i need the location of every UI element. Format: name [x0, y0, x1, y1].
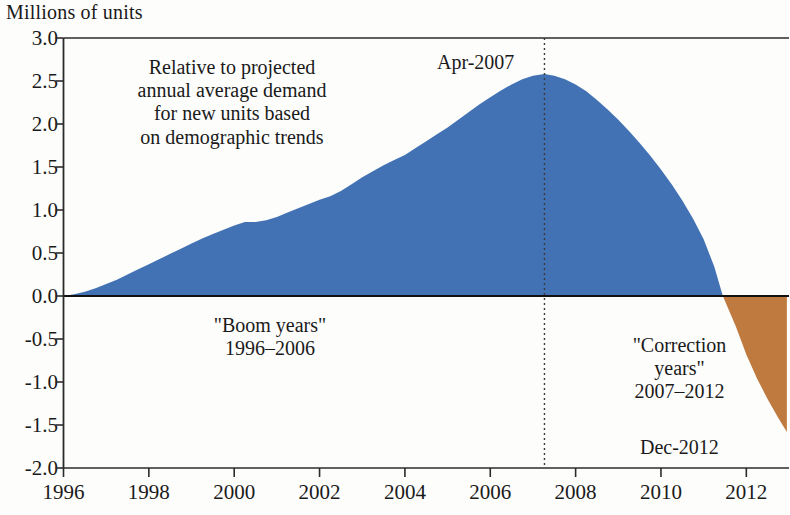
annotation-correction-years: "Correction years" 2007–2012 — [602, 334, 757, 404]
x-tick-label: 2008 — [555, 482, 597, 503]
x-tick-label: 2006 — [469, 482, 511, 503]
annotation-demand-note: Relative to projected annual average dem… — [104, 56, 360, 149]
chart-container: Millions of units 3.02.52.01.51.00.50.0-… — [0, 0, 790, 515]
x-tick-label: 2004 — [384, 482, 426, 503]
x-tick-label: 2010 — [640, 482, 682, 503]
peak-point-label: Apr-2007 — [437, 52, 514, 72]
x-tick-label: 2002 — [299, 482, 341, 503]
x-tick-label: 1998 — [128, 482, 170, 503]
y-axis-tick-marks — [56, 38, 64, 468]
annotation-boom-years: "Boom years" 1996–2006 — [170, 314, 370, 360]
end-point-label: Dec-2012 — [640, 437, 719, 457]
x-tick-label: 2012 — [725, 482, 767, 503]
x-tick-label: 2000 — [213, 482, 255, 503]
x-axis-tick-marks — [64, 468, 747, 477]
x-tick-label: 1996 — [43, 482, 85, 503]
